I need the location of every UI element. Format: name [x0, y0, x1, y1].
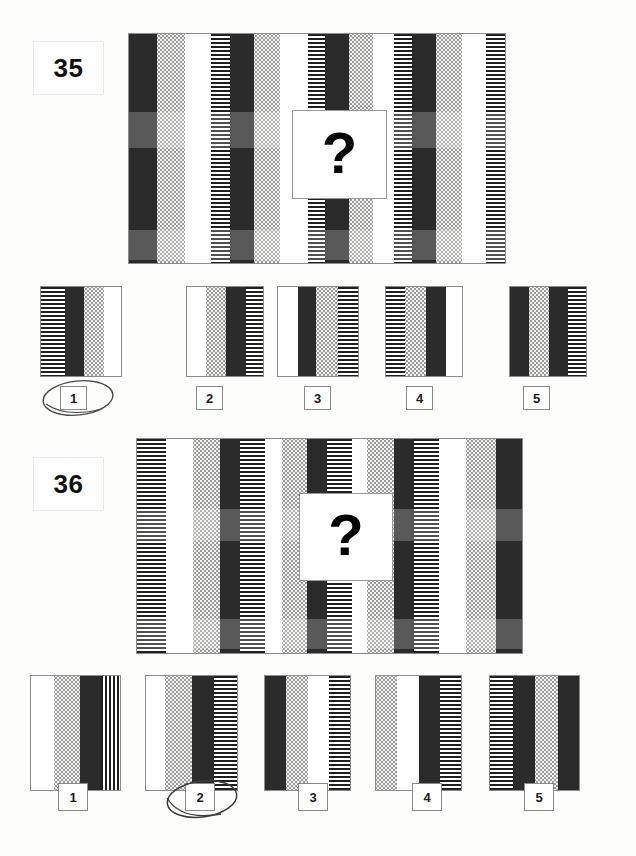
item-number-36: 36 — [33, 457, 104, 511]
stripe-black — [419, 676, 440, 790]
option-tile-36-4[interactable] — [375, 675, 462, 791]
stripe-dot — [405, 287, 426, 376]
option-label-36-5[interactable]: 5 — [524, 783, 554, 811]
stripe-hline — [568, 287, 586, 376]
stripe-black — [265, 676, 286, 790]
question-mark-36: ? — [328, 506, 363, 564]
stripe-white — [462, 34, 486, 263]
stripe-black — [192, 676, 215, 790]
option-tile-36-2[interactable] — [145, 675, 238, 791]
stripe-hline — [137, 439, 166, 653]
stripe-black — [412, 34, 436, 263]
question-window-35: ? — [292, 110, 387, 199]
option-label-35-4[interactable]: 4 — [406, 386, 433, 410]
stripe-vline — [101, 676, 120, 790]
option-label-text-35-5: 5 — [533, 391, 540, 406]
option-label-text-36-2: 2 — [196, 790, 203, 805]
stripe-dot — [157, 34, 184, 263]
question-mark-35: ? — [322, 124, 357, 182]
stripe-hline — [486, 34, 505, 263]
option-label-text-35-3: 3 — [314, 391, 321, 406]
stripe-white — [308, 676, 329, 790]
stripe-black — [510, 287, 529, 376]
option-tile-35-1[interactable] — [40, 286, 122, 377]
stripe-white — [187, 287, 206, 376]
option-stripes-36-5 — [490, 676, 579, 790]
stripe-hline — [211, 34, 230, 263]
stripe-white — [104, 287, 121, 376]
stripe-hline — [214, 676, 237, 790]
stripe-black — [394, 439, 414, 653]
stripe-white — [31, 676, 54, 790]
item-number-35-text: 35 — [54, 53, 84, 84]
option-label-text-36-3: 3 — [309, 790, 316, 805]
option-label-text-36-1: 1 — [69, 790, 76, 805]
stripe-black — [129, 34, 157, 263]
option-tile-36-5[interactable] — [489, 675, 580, 791]
option-stripes-36-3 — [265, 676, 350, 790]
stripe-dot — [286, 676, 309, 790]
stripe-white — [446, 287, 462, 376]
stripe-dot — [206, 287, 226, 376]
stripe-hline — [394, 34, 413, 263]
option-label-36-1[interactable]: 1 — [58, 783, 88, 811]
option-label-text-35-4: 4 — [416, 391, 423, 406]
option-tile-36-1[interactable] — [30, 675, 121, 791]
option-label-36-4[interactable]: 4 — [412, 783, 442, 811]
stripe-black — [65, 287, 84, 376]
option-label-text-36-4: 4 — [423, 790, 430, 805]
stripe-black — [220, 439, 240, 653]
stripe-dot — [316, 287, 338, 376]
option-label-36-2[interactable]: 2 — [185, 783, 215, 811]
option-label-35-2[interactable]: 2 — [196, 386, 223, 410]
stripe-hline — [386, 287, 405, 376]
option-stripes-35-1 — [41, 287, 121, 376]
option-tile-35-5[interactable] — [509, 286, 587, 377]
option-label-35-3[interactable]: 3 — [304, 386, 331, 410]
stripe-hline — [338, 287, 358, 376]
stripe-white — [397, 676, 420, 790]
option-label-text-35-1: 1 — [70, 391, 77, 406]
stripe-black — [549, 287, 568, 376]
stripe-hline — [240, 439, 265, 653]
stripe-black — [80, 676, 101, 790]
stripe-black — [558, 676, 579, 790]
stripe-black — [230, 34, 254, 263]
stripe-hline — [329, 676, 350, 790]
option-stripes-35-5 — [510, 287, 586, 376]
item-number-35: 35 — [33, 41, 104, 95]
test-page: 35 ? 1 2 3 4 5 — [0, 0, 636, 856]
option-tile-35-2[interactable] — [186, 286, 264, 377]
stripe-white — [146, 676, 165, 790]
stripe-white — [439, 439, 466, 653]
option-stripes-35-2 — [187, 287, 263, 376]
stripe-hline — [490, 676, 513, 790]
option-label-36-3[interactable]: 3 — [298, 783, 328, 811]
option-tile-35-4[interactable] — [385, 286, 463, 377]
stripe-dot — [165, 676, 192, 790]
stripe-white — [166, 439, 193, 653]
stripe-dot — [84, 287, 104, 376]
option-tile-35-3[interactable] — [277, 286, 359, 377]
stripe-white — [278, 287, 298, 376]
option-label-text-36-5: 5 — [535, 790, 542, 805]
stripe-hline — [414, 439, 439, 653]
stripe-dot — [193, 439, 220, 653]
stripe-dot — [535, 676, 558, 790]
option-label-35-1[interactable]: 1 — [60, 386, 87, 410]
stripe-white — [185, 34, 211, 263]
option-label-35-5[interactable]: 5 — [523, 386, 550, 410]
stripe-dot — [254, 34, 280, 263]
stripe-black — [513, 676, 534, 790]
item-number-36-text: 36 — [54, 469, 84, 500]
stripe-dot — [54, 676, 81, 790]
option-stripes-36-2 — [146, 676, 237, 790]
stripe-black — [298, 287, 316, 376]
stripe-dot — [436, 34, 462, 263]
option-tile-36-3[interactable] — [264, 675, 351, 791]
stripe-black — [226, 287, 246, 376]
option-stripes-35-4 — [386, 287, 462, 376]
option-label-text-35-2: 2 — [206, 391, 213, 406]
stripe-dot — [376, 676, 397, 790]
stripe-hline — [41, 287, 65, 376]
